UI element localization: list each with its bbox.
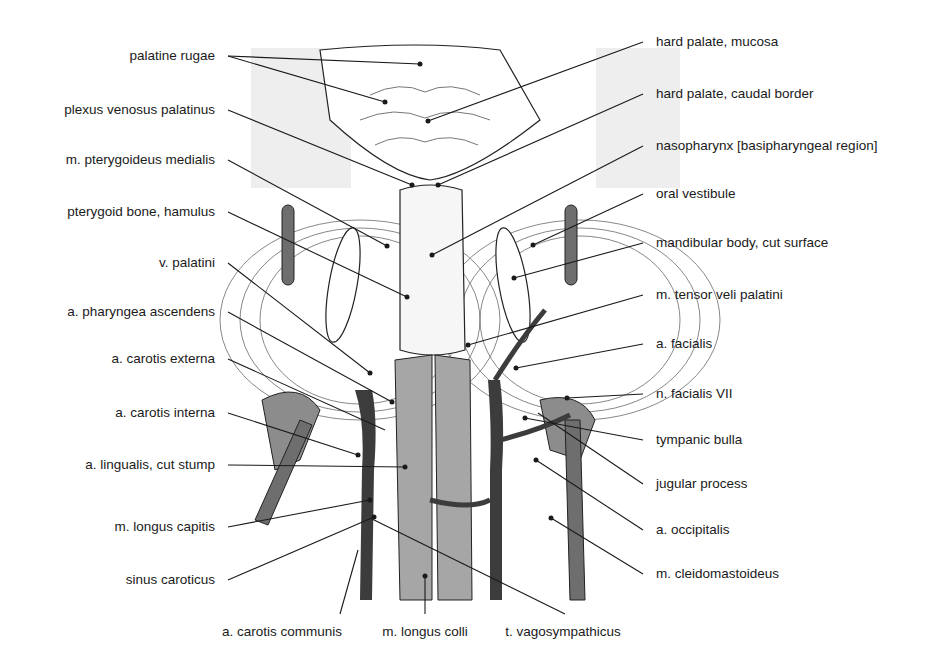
label-hard-palate-caudal-border: hard palate, caudal border	[656, 86, 814, 102]
label-oral-vestibule: oral vestibule	[656, 186, 736, 202]
anatomical-figure: palatine rugae plexus venosus palatinus …	[0, 0, 939, 671]
label-plexus-venosus-palatinus: plexus venosus palatinus	[64, 102, 215, 118]
label-tympanic-bulla: tympanic bulla	[656, 432, 742, 448]
label-m-longus-colli: m. longus colli	[382, 624, 468, 640]
label-v-palatini: v. palatini	[159, 255, 215, 271]
label-n-facialis-vii: n. facialis VII	[656, 386, 733, 402]
label-m-longus-capitis: m. longus capitis	[114, 519, 215, 535]
label-palatine-rugae: palatine rugae	[129, 48, 215, 64]
label-m-cleidomastoideus: m. cleidomastoideus	[656, 566, 779, 582]
label-a-carotis-interna: a. carotis interna	[115, 405, 215, 421]
label-a-carotis-externa: a. carotis externa	[111, 351, 215, 367]
label-jugular-process: jugular process	[656, 476, 748, 492]
background-panel-right	[596, 48, 680, 188]
label-a-facialis: a. facialis	[656, 336, 712, 352]
label-nasopharynx: nasopharynx [basipharyngeal region]	[656, 138, 877, 154]
label-a-pharyngea-ascendens: a. pharyngea ascendens	[67, 304, 215, 320]
label-a-occipitalis: a. occipitalis	[656, 522, 730, 538]
label-a-lingualis-cut-stump: a. lingualis, cut stump	[85, 457, 215, 473]
label-hard-palate-mucosa: hard palate, mucosa	[656, 34, 778, 50]
label-pterygoid-bone-hamulus: pterygoid bone, hamulus	[67, 204, 215, 220]
label-a-carotis-communis: a. carotis communis	[222, 624, 342, 640]
label-mandibular-body-cut-surface: mandibular body, cut surface	[656, 235, 828, 251]
label-m-tensor-veli-palatini: m. tensor veli palatini	[656, 287, 783, 303]
label-m-pterygoideus-medialis: m. pterygoideus medialis	[66, 152, 215, 168]
label-t-vagosympathicus: t. vagosympathicus	[505, 624, 621, 640]
label-sinus-caroticus: sinus caroticus	[126, 572, 215, 588]
